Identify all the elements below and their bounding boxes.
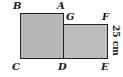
dimension-label-fe: 25 cm: [111, 25, 120, 56]
vertex-label-b: B: [13, 1, 21, 11]
vertex-label-d: D: [58, 62, 67, 72]
square-abcd: [20, 13, 64, 59]
vertex-label-a: A: [57, 1, 65, 11]
rectangle-gfed: [63, 24, 108, 59]
vertex-label-c: C: [12, 62, 20, 72]
vertex-label-f: F: [102, 12, 109, 22]
vertex-label-e: E: [101, 62, 109, 72]
vertex-label-g: G: [66, 12, 75, 22]
geometry-diagram: B A G F C D E 25 cm: [0, 0, 123, 77]
